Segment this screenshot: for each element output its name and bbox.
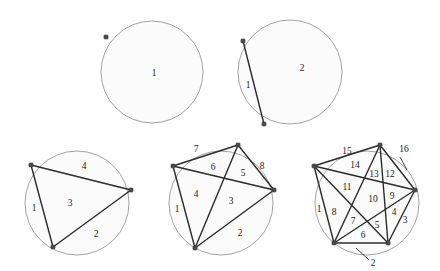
region-label-5: 5 — [375, 220, 380, 230]
region-label-13: 13 — [369, 169, 379, 179]
region-label-3: 3 — [403, 215, 408, 225]
region-label-6: 6 — [361, 230, 366, 240]
region-label-2: 2 — [300, 63, 305, 73]
vertex-dot-2 — [378, 143, 382, 147]
panel-5-points: 12345678910111213141516 — [312, 143, 419, 268]
circle-division-figure: 11212341234567812345678910111213141516 — [0, 0, 440, 271]
vertex-dot-3 — [51, 245, 55, 249]
region-label-6: 6 — [211, 162, 216, 172]
vertex-dot-4 — [193, 246, 197, 250]
region-label-8: 8 — [260, 161, 265, 171]
panel-4-points: 12345678 — [169, 143, 276, 255]
region-label-1: 1 — [317, 204, 322, 214]
vertex-dot-1 — [241, 39, 245, 43]
region-label-1: 1 — [246, 80, 251, 90]
vertex-dot-5 — [332, 241, 336, 245]
vertex-dot-2 — [129, 188, 133, 192]
region-label-14: 14 — [350, 160, 360, 170]
region-label-1: 1 — [32, 203, 37, 213]
region-label-7: 7 — [194, 144, 199, 154]
region-label-1: 1 — [152, 68, 157, 78]
region-label-4: 4 — [82, 161, 87, 171]
region-label-9: 9 — [390, 191, 395, 201]
region-label-4: 4 — [194, 189, 199, 199]
region-label-2: 2 — [371, 258, 376, 268]
figure-canvas: 11212341234567812345678910111213141516 — [0, 0, 440, 271]
region-label-2: 2 — [238, 228, 243, 238]
circle-outline — [315, 151, 419, 255]
vertex-dot-1 — [104, 35, 108, 39]
region-label-3: 3 — [229, 196, 234, 206]
region-label-2: 2 — [94, 229, 99, 239]
panel-2-points: 12 — [238, 20, 342, 126]
panel-3-points: 1234 — [25, 151, 133, 255]
circle-outline — [238, 20, 342, 124]
region-label-16: 16 — [399, 144, 409, 154]
panel-1-point: 1 — [101, 21, 203, 123]
vertex-dot-2 — [262, 122, 266, 126]
vertex-dot-1 — [29, 163, 33, 167]
vertex-dot-3 — [272, 188, 276, 192]
region-label-5: 5 — [241, 168, 246, 178]
vertex-dot-1 — [312, 164, 316, 168]
vertex-dot-1 — [171, 164, 175, 168]
region-label-8: 8 — [332, 207, 337, 217]
region-label-15: 15 — [342, 146, 352, 156]
vertex-dot-2 — [236, 143, 240, 147]
panels-layer: 11212341234567812345678910111213141516 — [25, 20, 419, 268]
vertex-dot-3 — [413, 188, 417, 192]
vertex-dot-4 — [386, 241, 390, 245]
region-label-4: 4 — [392, 207, 397, 217]
region-label-12: 12 — [385, 169, 395, 179]
region-label-3: 3 — [68, 198, 73, 208]
region-label-11: 11 — [342, 182, 351, 192]
region-label-10: 10 — [368, 194, 378, 204]
region-label-7: 7 — [351, 216, 356, 226]
region-label-1: 1 — [175, 204, 180, 214]
